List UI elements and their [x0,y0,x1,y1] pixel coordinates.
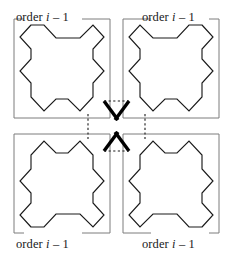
label-prefix: order [16,237,43,251]
label-variable: i [172,10,176,24]
label-variable: i [46,237,50,251]
label-offset: 1 [63,10,69,24]
cell-bottom-right [115,132,219,233]
label-offset: 1 [189,10,195,24]
cell-top-right [115,19,219,120]
cell-top-left [14,19,118,120]
label-bottom-left: order i – 1 [16,238,69,251]
cell-curve-path [20,141,104,227]
join-stub [115,101,129,120]
cell-frame [14,19,110,118]
figure-container: order i – 1 order i – 1 order i – 1 orde… [0,0,237,259]
label-top-left: order i – 1 [16,11,69,24]
label-prefix: order [16,10,43,24]
label-offset: 1 [189,237,195,251]
label-prefix: order [142,237,169,251]
cell-frame [14,134,110,233]
cell-frame [123,134,219,233]
cell-frame [123,19,219,118]
label-operator: – [179,237,185,251]
curve-diagram [0,0,237,259]
label-operator: – [179,10,185,24]
label-bottom-right: order i – 1 [142,238,195,251]
cell-curve-path [129,141,213,227]
label-top-right: order i – 1 [142,11,195,24]
label-operator: – [53,237,59,251]
label-operator: – [53,10,59,24]
label-variable: i [46,10,50,24]
cell-bottom-left [14,132,118,233]
label-offset: 1 [63,237,69,251]
connector-group [88,101,145,151]
label-prefix: order [142,10,169,24]
join-stub [115,132,129,151]
cell-curve-path [20,25,104,111]
cell-curve-path [129,25,213,111]
label-variable: i [172,237,176,251]
